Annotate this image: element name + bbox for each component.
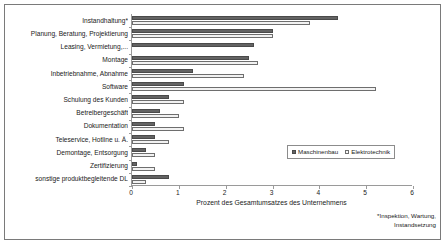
- y-axis-category-label: Montage: [8, 56, 128, 64]
- y-axis-tick-mark: [129, 40, 132, 41]
- y-axis-tick-mark: [129, 67, 132, 68]
- y-axis-category-label: Teleservice, Hotline u. Ä.: [8, 136, 128, 144]
- bar-1: [132, 153, 155, 157]
- bar-1: [132, 167, 155, 171]
- bar-0: [132, 148, 146, 152]
- y-axis-category-label: Inbetriebnahme, Abnahme: [8, 70, 128, 78]
- bar-0: [132, 16, 338, 20]
- bar-0: [132, 162, 137, 166]
- bar-group: [132, 93, 412, 106]
- y-axis-category-label: Schulung des Kunden: [8, 96, 128, 104]
- footnote-line-1: *Inspektion, Wartung,: [276, 212, 436, 221]
- bar-1: [132, 100, 184, 104]
- x-axis-tick-label: 2: [223, 188, 227, 197]
- legend-swatch-icon-maschinenbau: [292, 150, 296, 154]
- bar-group: [132, 40, 412, 53]
- y-axis-category-label: Zertifizierung: [8, 162, 128, 170]
- x-axis-tick-labels: 0123456: [131, 188, 412, 198]
- bar-rows: [132, 14, 412, 185]
- chart-figure: Instandhaltung*Planung, Beratung, Projek…: [0, 0, 445, 244]
- y-axis-category-label: Instandhaltung*: [8, 17, 128, 25]
- bar-0: [132, 69, 193, 73]
- x-axis-tick-label: 3: [270, 188, 274, 197]
- y-axis-category-label: Software: [8, 83, 128, 91]
- bar-group: [132, 67, 412, 80]
- bar-1: [132, 34, 273, 38]
- bar-0: [132, 122, 155, 126]
- x-axis-tick-label: 0: [129, 188, 133, 197]
- chart-legend: Maschinenbau Elektrotechnik: [287, 145, 395, 159]
- bar-0: [132, 43, 254, 47]
- y-axis-labels: Instandhaltung*Planung, Beratung, Projek…: [8, 14, 128, 186]
- x-axis-tick-label: 6: [410, 188, 414, 197]
- bar-group: [132, 160, 412, 173]
- footnote-line-2: Instandsetzung: [276, 221, 436, 230]
- y-axis-tick-mark: [129, 173, 132, 174]
- bar-0: [132, 29, 273, 33]
- bar-1: [132, 61, 258, 65]
- bar-group: [132, 14, 412, 27]
- bar-1: [132, 87, 376, 91]
- y-axis-category-label: Leasing, Vermietung,...: [8, 43, 128, 51]
- bar-1: [132, 21, 310, 25]
- legend-swatch-icon-elektrotechnik: [345, 150, 349, 154]
- y-axis-category-label: Betreibergeschäft: [8, 109, 128, 117]
- bar-1: [132, 180, 146, 184]
- y-axis-tick-mark: [129, 160, 132, 161]
- bar-0: [132, 56, 249, 60]
- y-axis-tick-mark: [129, 107, 132, 108]
- y-axis-tick-mark: [129, 133, 132, 134]
- bar-group: [132, 107, 412, 120]
- bar-group: [132, 80, 412, 93]
- chart-footnote: *Inspektion, Wartung, Instandsetzung: [276, 212, 436, 229]
- y-axis-category-label: sonstige produktbegleitende DL: [8, 175, 128, 183]
- y-axis-tick-mark: [129, 80, 132, 81]
- bar-0: [132, 175, 169, 179]
- y-axis-tick-mark: [129, 93, 132, 94]
- x-axis-tick-label: 5: [363, 188, 367, 197]
- x-axis-title: Prozent des Gesamtumsatzes des Unternehm…: [131, 198, 412, 208]
- y-axis-tick-mark: [129, 186, 132, 187]
- legend-label-elektrotechnik: Elektrotechnik: [351, 148, 390, 156]
- legend-label-maschinenbau: Maschinenbau: [298, 148, 338, 156]
- bar-group: [132, 120, 412, 133]
- y-axis-category-label: Dokumentation: [8, 122, 128, 130]
- y-axis-category-label: Demontage, Entsorgung: [8, 149, 128, 157]
- bar-1: [132, 140, 169, 144]
- x-axis-tick-label: 1: [176, 188, 180, 197]
- bar-1: [132, 114, 179, 118]
- legend-item-maschinenbau: Maschinenbau: [292, 148, 338, 156]
- bar-0: [132, 109, 160, 113]
- plot-area: [131, 14, 412, 186]
- y-axis-category-label: Planung, Beratung, Projektierung: [8, 30, 128, 38]
- bar-1: [132, 127, 184, 131]
- bar-group: [132, 173, 412, 186]
- bar-0: [132, 135, 155, 139]
- bar-0: [132, 95, 169, 99]
- bar-group: [132, 54, 412, 67]
- bar-1: [132, 74, 244, 78]
- y-axis-tick-mark: [129, 27, 132, 28]
- bar-group: [132, 27, 412, 40]
- legend-item-elektrotechnik: Elektrotechnik: [345, 148, 390, 156]
- y-axis-tick-mark: [129, 120, 132, 121]
- bar-0: [132, 82, 184, 86]
- y-axis-tick-mark: [129, 146, 132, 147]
- x-axis-tick-label: 4: [316, 188, 320, 197]
- y-axis-tick-mark: [129, 54, 132, 55]
